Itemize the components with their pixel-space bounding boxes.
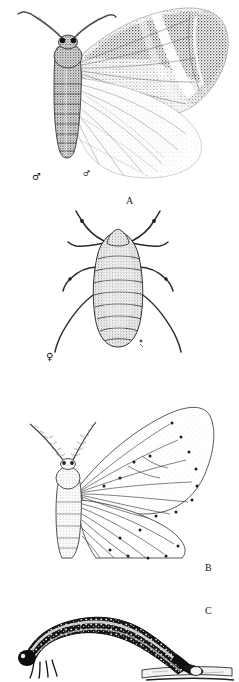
- figure-a-eye-right: [71, 38, 76, 43]
- figure-b-body: [56, 459, 81, 559]
- figure-a-male-symbol: ♂: [32, 172, 41, 182]
- figure-c-larva-body: [18, 608, 208, 682]
- figure-c-caption: C: [205, 606, 212, 616]
- figure-a-antennae: [18, 12, 116, 38]
- figure-female-wingless-moth: ♀: [0, 205, 239, 355]
- figure-c-looper-caterpillar: [0, 588, 239, 682]
- figure-b-antennae: [30, 422, 96, 460]
- figure-female-side-mark: [140, 340, 143, 347]
- figure-a-eye-left: [60, 38, 65, 43]
- figure-b-antennae-pectinations: [35, 424, 95, 456]
- figure-a-adult-male-moth: ♂ ♂: [0, 0, 239, 190]
- figure-b-caption: B: [205, 563, 212, 573]
- figure-a-secondary-male-mark: ♂: [83, 170, 90, 178]
- figure-female-symbol: ♀: [46, 352, 53, 362]
- illustration-plate: ♂ ♂ A: [0, 0, 239, 682]
- figure-c-thoracic-legs: [30, 660, 57, 678]
- figure-b-moth-line-drawing: [0, 378, 239, 558]
